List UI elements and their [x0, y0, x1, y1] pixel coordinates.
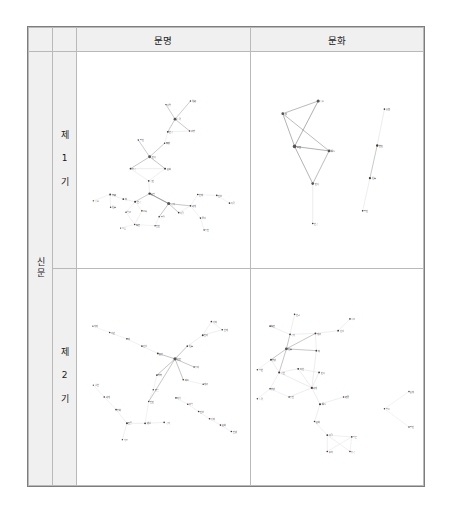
- network-node[interactable]: [138, 139, 139, 140]
- network-node[interactable]: [349, 451, 351, 453]
- network-node[interactable]: [408, 391, 409, 392]
- network-node[interactable]: [164, 168, 166, 170]
- network-node[interactable]: [178, 212, 180, 214]
- network-node[interactable]: [141, 210, 143, 212]
- network-node[interactable]: [376, 144, 378, 146]
- network-node[interactable]: [311, 223, 313, 225]
- network-node[interactable]: [342, 396, 344, 398]
- network-node[interactable]: [125, 211, 126, 212]
- network-node[interactable]: [148, 155, 151, 158]
- network-node[interactable]: [211, 321, 213, 323]
- network-node[interactable]: [297, 368, 299, 370]
- network-node[interactable]: [220, 424, 222, 426]
- network-node[interactable]: [122, 198, 124, 200]
- network-node-label: 국가: [171, 202, 175, 206]
- network-node[interactable]: [221, 329, 223, 331]
- network-node[interactable]: [310, 387, 312, 389]
- network-node[interactable]: [383, 108, 385, 110]
- network-node[interactable]: [197, 194, 199, 196]
- network-node[interactable]: [349, 318, 351, 320]
- network-node[interactable]: [293, 314, 295, 316]
- network-node[interactable]: [326, 434, 328, 436]
- network-node[interactable]: [92, 326, 93, 327]
- network-node[interactable]: [109, 332, 110, 333]
- network-node[interactable]: [187, 403, 189, 405]
- network-node[interactable]: [157, 352, 159, 354]
- network-node[interactable]: [122, 439, 123, 440]
- network-node[interactable]: [361, 210, 363, 212]
- network-node[interactable]: [173, 357, 176, 360]
- network-node[interactable]: [337, 330, 339, 332]
- network-node[interactable]: [368, 177, 370, 179]
- network-node[interactable]: [190, 100, 191, 101]
- network-node[interactable]: [115, 409, 117, 411]
- network-node[interactable]: [164, 142, 165, 143]
- network-node[interactable]: [408, 426, 409, 427]
- network-node[interactable]: [186, 345, 188, 347]
- network-node[interactable]: [289, 333, 291, 335]
- network-node[interactable]: [292, 145, 296, 149]
- network-node[interactable]: [216, 195, 218, 197]
- network-node-label: 민족: [314, 182, 318, 186]
- network-node[interactable]: [126, 338, 128, 340]
- network-node[interactable]: [315, 350, 317, 352]
- network-node[interactable]: [269, 325, 271, 327]
- network-node[interactable]: [256, 398, 257, 399]
- network-node[interactable]: [281, 112, 284, 115]
- network-node[interactable]: [158, 216, 160, 218]
- network-node[interactable]: [326, 451, 328, 453]
- network-node[interactable]: [93, 385, 94, 386]
- network-node[interactable]: [174, 118, 177, 121]
- network-node[interactable]: [134, 224, 135, 225]
- network-node[interactable]: [229, 202, 231, 204]
- network-node[interactable]: [198, 411, 200, 413]
- network-node[interactable]: [148, 192, 150, 194]
- network-node[interactable]: [148, 401, 149, 402]
- network-node[interactable]: [175, 397, 177, 399]
- network-node[interactable]: [189, 130, 191, 132]
- network-node[interactable]: [200, 217, 202, 219]
- network-node[interactable]: [103, 396, 105, 398]
- network-node[interactable]: [318, 372, 320, 374]
- network-node[interactable]: [163, 422, 165, 424]
- network-node[interactable]: [269, 388, 271, 390]
- network-node[interactable]: [270, 359, 272, 361]
- network-node[interactable]: [130, 168, 132, 170]
- network-node[interactable]: [284, 347, 287, 350]
- network-node[interactable]: [134, 201, 136, 203]
- network-node[interactable]: [318, 403, 320, 405]
- network-node[interactable]: [383, 408, 384, 409]
- network-node[interactable]: [316, 99, 319, 102]
- network-node[interactable]: [313, 421, 315, 423]
- network-node[interactable]: [202, 334, 204, 336]
- network-node[interactable]: [109, 194, 111, 196]
- network-node[interactable]: [202, 384, 203, 385]
- network-node[interactable]: [278, 371, 280, 373]
- network-node[interactable]: [203, 229, 204, 230]
- network-node[interactable]: [126, 422, 128, 424]
- network-node[interactable]: [93, 200, 94, 201]
- network-node[interactable]: [165, 104, 166, 105]
- network-node[interactable]: [120, 227, 121, 228]
- network-node[interactable]: [311, 182, 314, 185]
- network-node[interactable]: [167, 131, 169, 133]
- network-node[interactable]: [154, 225, 155, 226]
- network-node[interactable]: [141, 345, 143, 347]
- network-node[interactable]: [156, 374, 158, 376]
- network-edge: [138, 140, 149, 157]
- network-node[interactable]: [209, 418, 211, 420]
- network-node[interactable]: [167, 202, 170, 205]
- network-node[interactable]: [153, 389, 154, 390]
- network-node[interactable]: [144, 422, 146, 424]
- network-node[interactable]: [288, 396, 290, 398]
- network-node[interactable]: [110, 206, 111, 207]
- network-node[interactable]: [182, 379, 184, 381]
- network-node[interactable]: [193, 366, 194, 367]
- network-node[interactable]: [190, 205, 192, 207]
- network-node[interactable]: [350, 436, 352, 438]
- network-node[interactable]: [314, 333, 316, 335]
- network-node[interactable]: [231, 431, 233, 433]
- network-node[interactable]: [256, 369, 257, 370]
- network-node[interactable]: [148, 180, 150, 182]
- network-node[interactable]: [327, 149, 330, 152]
